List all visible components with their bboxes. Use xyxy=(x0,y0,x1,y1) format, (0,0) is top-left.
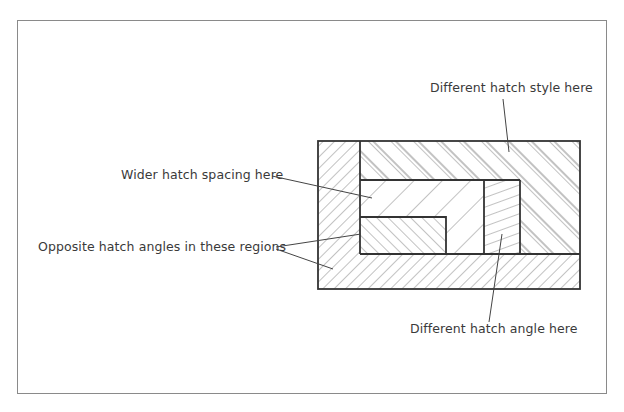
left-column-region xyxy=(318,141,360,289)
hatch-diagram xyxy=(0,0,624,412)
label-opposite-angles: Opposite hatch angles in these regions xyxy=(38,239,286,254)
label-wider-spacing: Wider hatch spacing here xyxy=(121,167,283,182)
label-hatch-angle: Different hatch angle here xyxy=(410,321,578,336)
bottom-bar-region xyxy=(360,254,580,289)
label-hatch-style: Different hatch style here xyxy=(430,80,593,95)
